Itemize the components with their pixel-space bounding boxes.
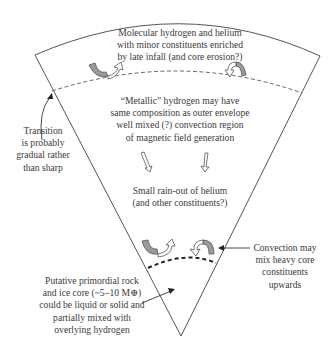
label-line: Putative primordial rock <box>30 275 154 287</box>
convection-arrow-lower-right-icon <box>190 240 214 256</box>
label-line: by late infall (and core erosion?) <box>80 51 280 63</box>
metallic-region-label: “Metallic” hydrogen may have same compos… <box>95 95 265 144</box>
label-line: upwards <box>245 279 325 291</box>
label-line: Molecular hydrogen and helium <box>80 27 280 39</box>
label-line: Transition <box>8 125 78 137</box>
label-line: partially mixed with <box>30 312 154 324</box>
core-convection-note-label: Convection may mix heavy core constituen… <box>245 242 325 291</box>
helium-rainout-label: Small rain-out of helium (and other cons… <box>120 185 240 209</box>
label-line: than sharp <box>8 162 78 174</box>
core-note-label: Putative primordial rock and ice core (~… <box>30 275 154 336</box>
convection-arrow-upper-left-icon <box>89 62 123 79</box>
core-boundary-dashed <box>148 258 216 268</box>
label-line: mix heavy core <box>245 254 325 266</box>
transition-boundary-dashed <box>52 71 302 93</box>
label-line: gradual rather <box>8 149 78 161</box>
convection-arrow-upper-right-icon <box>225 62 246 77</box>
rainout-arrow-left-icon <box>141 152 152 172</box>
label-line: constituents <box>245 266 325 278</box>
label-line: of magnetic field generation <box>95 132 265 144</box>
label-line: (and other constituents?) <box>120 197 240 209</box>
label-line: with minor constituents enriched <box>80 39 280 51</box>
label-line: “Metallic” hydrogen may have <box>95 95 265 107</box>
label-line: Small rain-out of helium <box>120 185 240 197</box>
label-line: overlying hydrogen <box>30 324 154 336</box>
label-line: Convection may <box>245 242 325 254</box>
rainout-arrow-right-icon <box>201 153 209 172</box>
label-line: same composition as outer envelope <box>95 107 265 119</box>
outer-envelope-label: Molecular hydrogen and helium with minor… <box>80 27 280 64</box>
label-line: and ice core (~5–10 M⊕) <box>30 287 154 299</box>
label-line: is probably <box>8 137 78 149</box>
label-line: well mixed (?) convection region <box>95 119 265 131</box>
transition-note-label: Transition is probably gradual rather th… <box>8 125 78 174</box>
convection-arrow-lower-left-icon <box>142 239 175 257</box>
label-line: could be liquid or solid and <box>30 299 154 311</box>
